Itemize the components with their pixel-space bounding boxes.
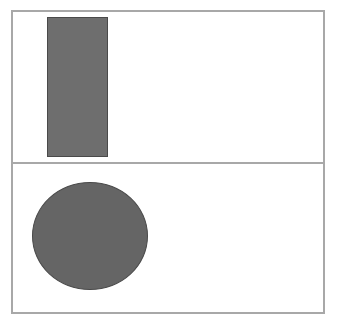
panel-divider [13,162,323,164]
ellipse-shape [32,182,148,290]
rectangle-shape [47,17,108,157]
